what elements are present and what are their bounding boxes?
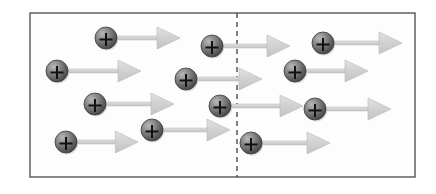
charge-flow-diagram: ++++++++++++ (0, 0, 436, 194)
arrow-shaft (117, 36, 157, 40)
arrow-shaft (306, 69, 345, 73)
arrow-shaft (231, 104, 280, 108)
arrow-shaft (163, 128, 207, 132)
arrow-shaft (106, 102, 151, 106)
arrow-shaft (262, 141, 307, 145)
arrow-shaft (223, 44, 267, 48)
arrow-shaft (197, 77, 239, 81)
arrow-shaft (326, 107, 368, 111)
arrow-shaft (77, 140, 115, 144)
arrow-shaft (334, 41, 379, 45)
figure-canvas: ++++++++++++ (0, 0, 436, 194)
arrow-shaft (68, 69, 118, 73)
